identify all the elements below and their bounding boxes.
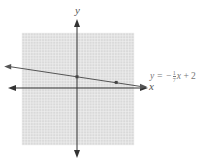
grid <box>22 33 134 145</box>
fraction-denominator: 7 <box>173 77 176 83</box>
fraction: 17 <box>173 70 176 83</box>
equation-label: y = −17x + 2 <box>150 70 196 83</box>
equation-rhs: + 2 <box>181 71 196 81</box>
equation-lhs: y = − <box>150 71 172 81</box>
y-axis-label: y <box>75 4 80 16</box>
fraction-numerator: 1 <box>173 70 176 77</box>
